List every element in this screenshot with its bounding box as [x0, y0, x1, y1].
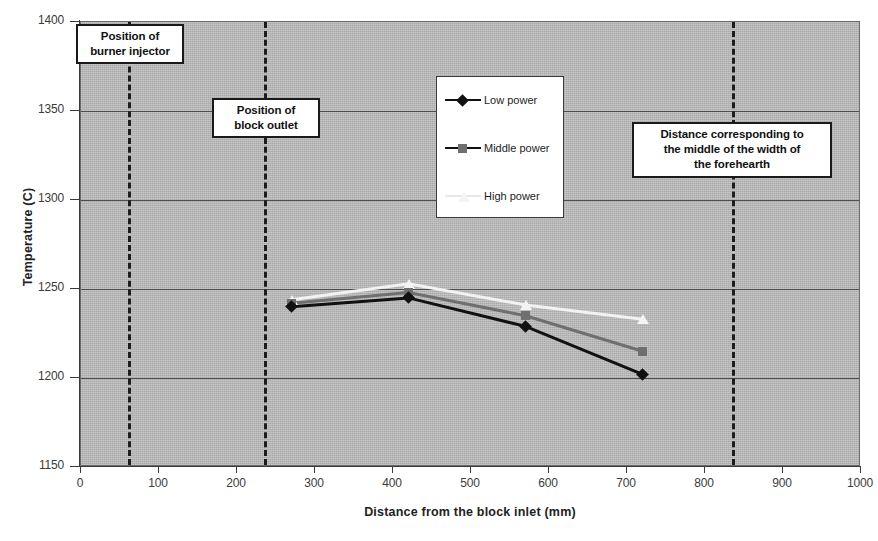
- x-tick-700: [626, 466, 627, 473]
- x-tick-300: [314, 466, 315, 473]
- x-tick-label-1000: 1000: [838, 476, 878, 490]
- x-tick-500: [470, 466, 471, 473]
- callout-block-outlet: Position of block outlet: [212, 98, 320, 138]
- y-tick-1400: [70, 21, 80, 22]
- x-tick-600: [548, 466, 549, 473]
- data-point-middle-power-720: [638, 347, 647, 356]
- x-tick-label-300: 300: [292, 476, 336, 490]
- callout-forehearth-middle: Distance corresponding to the middle of …: [632, 122, 832, 178]
- x-axis-title: Distance from the block inlet (mm): [80, 505, 860, 519]
- x-tick-label-600: 600: [526, 476, 570, 490]
- x-tick-label-200: 200: [214, 476, 258, 490]
- x-tick-label-800: 800: [682, 476, 726, 490]
- data-point-high-power-720: [637, 314, 649, 324]
- legend-marker-triangle-icon: [445, 189, 481, 203]
- y-tick-label-1200: 1200: [16, 369, 64, 383]
- x-tick-label-100: 100: [136, 476, 180, 490]
- x-tick-label-900: 900: [760, 476, 804, 490]
- y-tick-1200: [70, 377, 80, 378]
- legend-label-high-power: High power: [484, 190, 540, 202]
- x-tick-800: [704, 466, 705, 473]
- x-tick-0: [80, 466, 81, 473]
- x-tick-200: [236, 466, 237, 473]
- y-tick-label-1150: 1150: [16, 458, 64, 472]
- y-tick-1150: [70, 466, 80, 467]
- y-axis-line: [79, 20, 80, 467]
- chart-legend: Low power Middle power High power: [436, 76, 564, 218]
- callout-forehearth-line2: the middle of the width of: [640, 142, 824, 157]
- y-tick-1300: [70, 199, 80, 200]
- callout-burner-injector-line2: burner injector: [84, 44, 176, 59]
- y-axis-title: Temperature (C): [21, 157, 35, 317]
- x-tick-1000: [860, 466, 861, 473]
- legend-label-middle-power: Middle power: [484, 142, 549, 154]
- x-tick-900: [782, 466, 783, 473]
- y-tick-1250: [70, 288, 80, 289]
- legend-item-middle-power[interactable]: Middle power: [445, 139, 549, 157]
- y-tick-label-1400: 1400: [16, 13, 64, 27]
- x-tick-label-400: 400: [370, 476, 414, 490]
- y-tick-1350: [70, 110, 80, 111]
- x-tick-label-0: 0: [58, 476, 102, 490]
- callout-block-outlet-line1: Position of: [220, 103, 312, 118]
- legend-item-low-power[interactable]: Low power: [445, 91, 537, 109]
- x-tick-100: [158, 466, 159, 473]
- legend-marker-square-icon: [445, 141, 481, 155]
- callout-burner-injector-line1: Position of: [84, 29, 176, 44]
- x-tick-label-500: 500: [448, 476, 492, 490]
- legend-marker-diamond-icon: [445, 93, 481, 107]
- legend-label-low-power: Low power: [484, 94, 537, 106]
- data-point-high-power-570: [520, 300, 532, 310]
- callout-block-outlet-line2: block outlet: [220, 118, 312, 133]
- callout-forehearth-line1: Distance corresponding to: [640, 127, 824, 142]
- legend-item-high-power[interactable]: High power: [445, 187, 540, 205]
- x-tick-400: [392, 466, 393, 473]
- callout-forehearth-line3: the forehearth: [640, 157, 824, 172]
- y-tick-label-1350: 1350: [16, 102, 64, 116]
- callout-burner-injector: Position of burner injector: [76, 24, 184, 64]
- data-point-middle-power-570: [521, 311, 530, 320]
- x-tick-label-700: 700: [604, 476, 648, 490]
